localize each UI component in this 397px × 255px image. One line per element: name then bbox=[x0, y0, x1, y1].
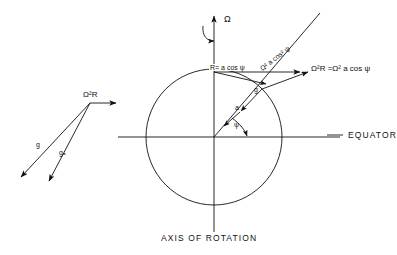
centrifugal-magnitude-label: Ω²R =Ω² a cos ψ bbox=[311, 65, 370, 73]
radius-slant-line bbox=[214, 13, 320, 137]
inset-apparent-gravity-label: gₐ bbox=[59, 149, 66, 156]
inset-centrifugal-label: Ω²R bbox=[83, 91, 97, 99]
sphere-radius-label: a bbox=[235, 104, 239, 111]
gravity-vector-inward bbox=[241, 89, 262, 111]
centrifugal-vector bbox=[262, 72, 308, 89]
omega-label: Ω bbox=[224, 15, 231, 24]
rotating-earth-gravity-diagram bbox=[0, 0, 397, 255]
gravity-label: g bbox=[254, 86, 258, 93]
equator-label: EQUATOR bbox=[348, 131, 397, 140]
cylindrical-radius-label: R= a cos ψ bbox=[209, 64, 246, 71]
inset-true-gravity-vector bbox=[21, 103, 90, 177]
latitude-angle-label: ψ bbox=[234, 121, 239, 128]
inset-true-gravity-label: g bbox=[36, 141, 40, 148]
rotation-curved-arrow bbox=[203, 26, 214, 41]
axis-caption: AXIS OF ROTATION bbox=[161, 234, 257, 243]
inset-apparent-gravity-vector bbox=[49, 103, 90, 181]
